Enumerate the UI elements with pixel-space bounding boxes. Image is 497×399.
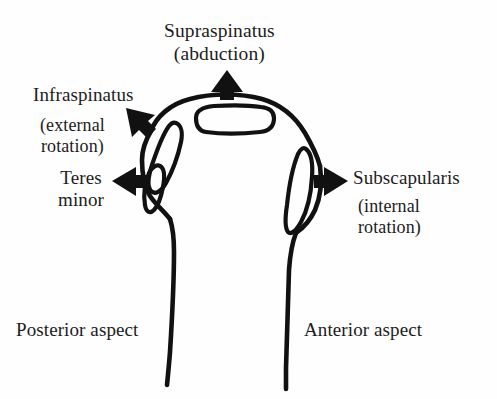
infraspinatus-name: Infraspinatus (33, 84, 134, 105)
supraspinatus-name: Supraspinatus (164, 20, 275, 41)
internal-rotation-line1: (internal (358, 196, 420, 216)
teres-minor-line1: Teres (60, 167, 101, 188)
label-subscapularis: Subscapularis (353, 167, 460, 189)
label-teres-minor: Teres minor (48, 167, 114, 212)
label-infraspinatus: Infraspinatus (33, 84, 134, 106)
teres-minor-line2: minor (48, 189, 114, 211)
supraspinatus-facet (196, 105, 274, 133)
infraspinatus-arrow (126, 108, 156, 138)
external-rotation-line2: rotation) (40, 136, 105, 157)
external-rotation-line1: (external (40, 115, 105, 135)
subscapularis-name: Subscapularis (353, 167, 460, 188)
supraspinatus-action: (abduction) (164, 43, 275, 66)
label-posterior-aspect: Posterior aspect (16, 319, 138, 341)
internal-rotation-line2: rotation) (358, 217, 421, 238)
label-supraspinatus: Supraspinatus (abduction) (164, 20, 275, 65)
humerus-outline (142, 95, 321, 390)
label-anterior-aspect: Anterior aspect (304, 319, 422, 341)
label-infraspinatus-action: (external rotation) (40, 115, 105, 157)
label-subscapularis-action: (internal rotation) (358, 196, 421, 238)
rotator-cuff-diagram: Supraspinatus (abduction) Infraspinatus … (0, 0, 497, 399)
